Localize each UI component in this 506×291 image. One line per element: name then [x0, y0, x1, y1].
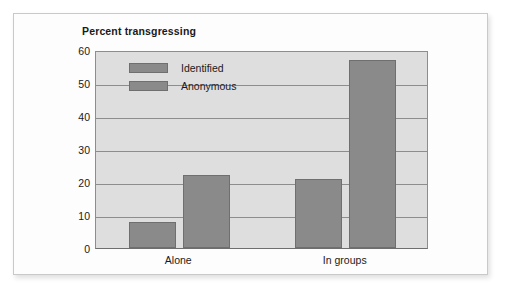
y-tick-label-50: 50	[78, 78, 90, 90]
legend-item-identified: Identified	[129, 61, 236, 75]
bar-in-groups-identified	[295, 179, 342, 248]
y-tick-label-60: 60	[78, 45, 90, 57]
y-tick-label-40: 40	[78, 111, 90, 123]
chart-title: Percent transgressing	[82, 25, 196, 37]
legend-label-anonymous: Anonymous	[181, 80, 236, 92]
x-axis-labels: AloneIn groups	[95, 254, 428, 272]
legend-swatch-identified	[129, 63, 168, 73]
bar-in-groups-anonymous	[349, 60, 396, 248]
chart-legend: IdentifiedAnonymous	[129, 61, 236, 97]
y-tick-label-10: 10	[78, 210, 90, 222]
bar-alone-anonymous	[183, 175, 230, 248]
bar-alone-identified	[129, 222, 176, 248]
y-tick-label-0: 0	[84, 243, 90, 255]
legend-label-identified: Identified	[181, 62, 224, 74]
x-tick-label-in-groups: In groups	[323, 254, 367, 266]
figure-card: Percent transgressing 0102030405060 Alon…	[13, 13, 488, 275]
y-axis-labels: 0102030405060	[57, 51, 90, 249]
x-tick-label-alone: Alone	[165, 254, 192, 266]
legend-item-anonymous: Anonymous	[129, 79, 236, 93]
legend-swatch-anonymous	[129, 81, 168, 91]
y-tick-label-30: 30	[78, 144, 90, 156]
y-tick-label-20: 20	[78, 177, 90, 189]
